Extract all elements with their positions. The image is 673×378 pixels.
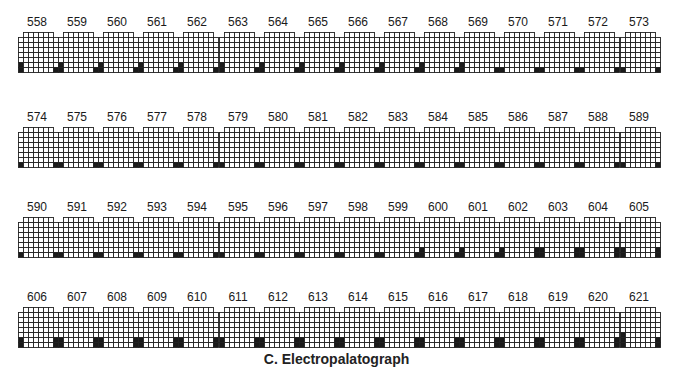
frame-number: 564 [258, 15, 298, 29]
palate-grid [178, 127, 220, 169]
palate-grid [178, 32, 220, 74]
frame-number: 610 [177, 290, 217, 304]
frame-number: 604 [578, 200, 618, 214]
palate-grid [339, 32, 381, 74]
frame-number: 616 [418, 290, 458, 304]
frame-number: 617 [458, 290, 498, 304]
palate-grid [138, 127, 180, 169]
palate-grid [138, 217, 180, 259]
palate-grid [579, 217, 621, 259]
frame-number: 600 [418, 200, 458, 214]
palate-grid [18, 307, 60, 349]
palate-grid [219, 307, 261, 349]
palate-grid [499, 307, 541, 349]
palate-grid [219, 127, 261, 169]
frame-number: 562 [177, 15, 217, 29]
palate-grid [459, 32, 501, 74]
palate-grid [259, 32, 301, 74]
frame-number: 619 [538, 290, 578, 304]
frame-number: 597 [298, 200, 338, 214]
palate-grid [539, 217, 581, 259]
frame-number: 563 [218, 15, 258, 29]
frame-number: 585 [458, 110, 498, 124]
palate-grid [499, 32, 541, 74]
palate-grid [98, 307, 140, 349]
frame-number: 620 [578, 290, 618, 304]
frame-number: 612 [258, 290, 298, 304]
palate-grid [419, 32, 461, 74]
frame-number: 583 [378, 110, 418, 124]
frame-number: 576 [97, 110, 137, 124]
palate-grid [499, 127, 541, 169]
palate-grid [259, 127, 301, 169]
frame-number: 579 [218, 110, 258, 124]
figure-caption: C. Electropalatograph [0, 351, 673, 367]
palate-grid [98, 32, 140, 74]
palate-grid [138, 32, 180, 74]
palate-grid [459, 307, 501, 349]
palate-grid [219, 32, 261, 74]
frame-number: 570 [498, 15, 538, 29]
palate-grid [299, 127, 341, 169]
frame-number: 621 [619, 290, 659, 304]
frame-number: 572 [578, 15, 618, 29]
palate-grid [98, 127, 140, 169]
frame-number: 577 [137, 110, 177, 124]
palate-grid [579, 307, 621, 349]
frame-number: 603 [538, 200, 578, 214]
palate-grid [58, 127, 100, 169]
frame-number: 561 [137, 15, 177, 29]
frame-number: 586 [498, 110, 538, 124]
frame-number: 599 [378, 200, 418, 214]
frame-number: 607 [57, 290, 97, 304]
palate-grid [299, 217, 341, 259]
palate-grid [459, 127, 501, 169]
frame-number: 593 [137, 200, 177, 214]
palate-grid [299, 307, 341, 349]
palate-grid [379, 127, 421, 169]
frame-number: 592 [97, 200, 137, 214]
palate-grid [379, 217, 421, 259]
palate-grid [419, 127, 461, 169]
frame-number: 573 [619, 15, 659, 29]
palate-grid [259, 307, 301, 349]
palate-grid [259, 217, 301, 259]
frame-number: 609 [137, 290, 177, 304]
frame-number: 611 [218, 290, 258, 304]
palate-grid [459, 217, 501, 259]
frame-number: 594 [177, 200, 217, 214]
palate-grid [620, 127, 662, 169]
frame-number: 567 [378, 15, 418, 29]
palate-grid [339, 217, 381, 259]
palate-grid [98, 217, 140, 259]
frame-number: 595 [218, 200, 258, 214]
frame-number: 559 [57, 15, 97, 29]
frame-number: 613 [298, 290, 338, 304]
palate-grid [579, 32, 621, 74]
frame-number: 582 [338, 110, 378, 124]
frame-number: 596 [258, 200, 298, 214]
frame-number: 580 [258, 110, 298, 124]
palate-grid [379, 32, 421, 74]
frame-number: 584 [418, 110, 458, 124]
palate-grid [499, 217, 541, 259]
frame-number: 618 [498, 290, 538, 304]
frame-number: 581 [298, 110, 338, 124]
frame-number: 566 [338, 15, 378, 29]
palate-grid [579, 127, 621, 169]
frame-number: 571 [538, 15, 578, 29]
frame-number: 568 [418, 15, 458, 29]
palate-grid [620, 217, 662, 259]
frame-number: 590 [17, 200, 57, 214]
frame-number: 602 [498, 200, 538, 214]
palate-grid [539, 307, 581, 349]
palate-grid [178, 307, 220, 349]
palate-grid [339, 307, 381, 349]
frame-number: 605 [619, 200, 659, 214]
palate-grid [18, 127, 60, 169]
frame-number: 558 [17, 15, 57, 29]
frame-number: 614 [338, 290, 378, 304]
electropalatograph-figure: 5585595605615625635645655665675685695705… [0, 0, 673, 378]
frame-number: 591 [57, 200, 97, 214]
palate-grid [539, 127, 581, 169]
